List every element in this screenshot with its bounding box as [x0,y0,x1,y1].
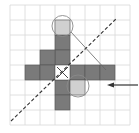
dark-cell [70,65,85,80]
light-cell [55,20,70,35]
arrowhead [107,83,114,88]
dark-cell [55,95,70,110]
dark-cell [25,65,40,80]
connector-line [71,32,106,70]
dark-cell [40,65,55,80]
dark-cell [40,50,55,65]
dark-cell [55,50,70,65]
light-cell [70,80,85,95]
dark-cell [100,65,115,80]
grid-diagram [0,0,139,133]
dark-cell [55,35,70,50]
left-arrow-icon [107,83,138,88]
dark-cell [85,65,100,80]
